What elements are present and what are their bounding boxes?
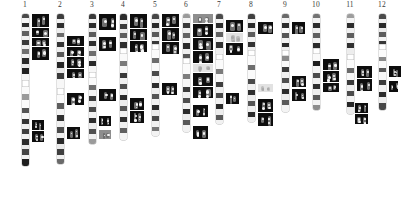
ideogram-chromosome-4 [120, 14, 127, 140]
fish-signal-dot [43, 51, 46, 54]
ideogram-band [282, 105, 289, 112]
fish-signal-dot [141, 49, 144, 52]
fish-signal-dot [44, 32, 47, 35]
fish-panel [258, 113, 273, 126]
fish-panel [355, 114, 368, 124]
centromere [248, 50, 255, 56]
fish-panel [67, 69, 84, 78]
fish-signal-dot [73, 74, 75, 76]
fish-panel [193, 126, 208, 139]
fish-panel [193, 105, 208, 117]
fish-panel [162, 28, 179, 41]
fish-panel [226, 43, 243, 55]
fish-signal-dot [102, 119, 104, 121]
fish-signal-dot [43, 44, 46, 46]
fish-panel [292, 89, 306, 101]
ideogram-band [183, 79, 190, 87]
fish-signal-dot [199, 69, 201, 71]
fish-signal-dot [38, 52, 41, 55]
fish-signal-dot [268, 118, 270, 120]
fish-chromosome-blob [396, 70, 398, 78]
ideogram-chromosome-9 [282, 14, 289, 112]
fish-panel [193, 14, 213, 23]
fish-signal-dot [71, 51, 74, 54]
fish-signal-dot [203, 113, 205, 115]
centromere [183, 58, 190, 64]
fish-panel [258, 99, 273, 112]
fish-panel [67, 127, 80, 139]
fish-signal-dot [112, 20, 115, 23]
fish-panel [32, 14, 49, 27]
fish-signal-dot [76, 135, 78, 137]
fish-panel [193, 73, 213, 86]
ideogram-band [313, 105, 320, 110]
ideogram-chromosome-8 [248, 14, 255, 122]
fish-signal-dot [207, 78, 209, 80]
fish-signal-dot [206, 56, 209, 59]
fish-signal-dot [199, 18, 202, 21]
ideogram-chromosome-11 [347, 14, 354, 114]
fish-signal-dot [264, 26, 267, 29]
ideogram-band [216, 120, 223, 124]
fish-signal-dot [37, 42, 40, 45]
fish-signal-dot [172, 88, 174, 90]
fish-signal-dot [262, 118, 264, 120]
ideogram-chromosome-12 [379, 14, 386, 110]
fish-panel [162, 42, 179, 54]
fish-signal-dot [362, 74, 364, 76]
fish-signal-dot [134, 33, 136, 35]
centromere [379, 44, 386, 50]
ideogram-band [89, 78, 96, 85]
fish-signal-dot [361, 90, 363, 92]
fish-signal-dot [230, 96, 232, 98]
fish-signal-dot [197, 110, 200, 113]
fish-panel [130, 29, 147, 40]
fish-signal-dot [207, 67, 210, 70]
fish-signal-dot [268, 107, 271, 110]
fish-panel [258, 22, 273, 34]
fish-signal-dot [171, 92, 173, 94]
ideogram-chromosome-3 [89, 14, 96, 144]
fish-signal-dot [205, 21, 208, 23]
ideogram-band [152, 76, 159, 83]
fish-signal-dot [78, 64, 81, 67]
ideogram-chromosome-6 [183, 14, 190, 132]
fish-signal-dot [78, 100, 81, 103]
ideogram-band [313, 66, 320, 73]
fish-signal-dot [362, 71, 364, 73]
chromosome-fish-figure: 123456789101112 [0, 0, 419, 206]
fish-signal-dot [296, 27, 298, 29]
fish-signal-dot [35, 126, 37, 128]
fish-panel [99, 37, 116, 51]
fish-signal-dot [231, 24, 234, 27]
fish-panel [226, 33, 243, 42]
fish-panel [99, 89, 116, 101]
fish-signal-dot [334, 64, 337, 67]
ideogram-band [57, 159, 64, 164]
fish-signal-dot [77, 55, 80, 56]
fish-signal-dot [36, 139, 38, 141]
ideogram-band [22, 100, 29, 108]
ideogram-band [22, 87, 29, 94]
ideogram-band [379, 50, 386, 57]
ideogram-band [22, 159, 29, 166]
fish-signal-dot [136, 51, 138, 53]
ideogram-band [313, 54, 320, 61]
centromere [120, 48, 127, 54]
fish-panel [389, 81, 398, 92]
fish-signal-dot [173, 34, 175, 36]
fish-signal-dot [359, 107, 361, 109]
fish-signal-dot [392, 86, 393, 87]
chromosome-number-label: 12 [368, 0, 396, 9]
fish-signal-dot [297, 80, 299, 82]
fish-signal-dot [198, 95, 201, 98]
fish-signal-dot [397, 87, 398, 89]
fish-panel [99, 116, 111, 126]
fish-signal-dot [168, 32, 171, 35]
ideogram-band [57, 79, 64, 88]
fish-panel [357, 79, 372, 91]
fish-signal-dot [199, 92, 201, 94]
fish-chromosome-blob [70, 131, 72, 138]
fish-panel [355, 103, 368, 113]
chromosome-number-label: 2 [46, 0, 74, 9]
